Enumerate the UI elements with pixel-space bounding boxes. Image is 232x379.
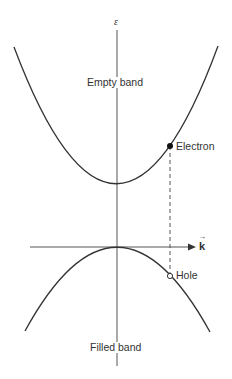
energy-axis-label: ε (114, 17, 118, 27)
band-diagram (0, 0, 232, 379)
k-axis-label: k (199, 240, 205, 252)
k-axis-arrowhead-icon (188, 244, 196, 251)
hole-label: Hole (176, 270, 198, 281)
electron-dot-icon (167, 143, 173, 149)
hole-circle-icon (167, 273, 172, 278)
k-axis-label-group: → k (198, 239, 208, 253)
conduction-band-curve (14, 46, 218, 184)
electron-label: Electron (176, 141, 215, 152)
filled-band-label: Filled band (89, 342, 142, 353)
empty-band-label: Empty band (86, 77, 144, 88)
